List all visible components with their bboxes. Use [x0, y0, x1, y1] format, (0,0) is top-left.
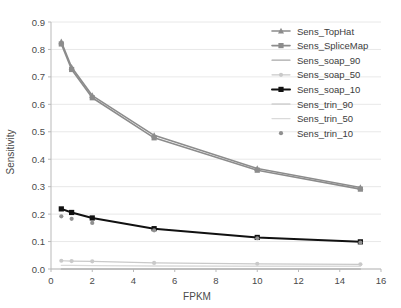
- data-point-marker: [59, 41, 64, 46]
- series-sens-soap-10: [59, 206, 363, 244]
- y-tick-label: 0.1: [32, 236, 45, 247]
- legend-item-sens-tophat[interactable]: Sens_TopHat: [272, 26, 354, 37]
- data-point-marker: [59, 206, 64, 211]
- data-point-marker: [90, 215, 95, 220]
- data-point-marker: [255, 262, 259, 266]
- legend-item-label: Sens_trin_50: [297, 113, 353, 124]
- legend-item-label: Sens_trin_10: [297, 128, 353, 139]
- data-point-marker: [255, 168, 260, 173]
- data-point-marker: [59, 214, 63, 218]
- chart-container: 0.00.10.20.30.40.50.60.70.80.9 024681012…: [0, 0, 401, 308]
- y-tick-label: 0.8: [32, 44, 45, 55]
- data-point-marker: [255, 236, 259, 240]
- x-tick-label: 12: [293, 275, 304, 286]
- y-tick-label: 0.0: [32, 264, 45, 275]
- data-point-marker: [59, 259, 63, 263]
- y-tick-label: 0.5: [32, 126, 45, 137]
- legend-item-label: Sens_SpliceMap: [297, 40, 368, 51]
- data-point-marker: [358, 187, 363, 192]
- legend-item-label: Sens_soap_50: [297, 69, 360, 80]
- x-tick-label: 14: [334, 275, 345, 286]
- x-tick-label: 4: [131, 275, 136, 286]
- series-line: [61, 265, 360, 266]
- legend-item-sens-soap-50[interactable]: Sens_soap_50: [272, 69, 360, 80]
- series-line: [61, 261, 360, 265]
- y-tick-label: 0.2: [32, 209, 45, 220]
- legend-item-sens-soap-90[interactable]: Sens_soap_90: [272, 55, 360, 66]
- data-point-marker: [69, 67, 74, 72]
- x-tick-label: 6: [172, 275, 177, 286]
- legend-item-sens-trin-90[interactable]: Sens_trin_90: [272, 99, 353, 110]
- data-point-marker: [69, 210, 74, 215]
- x-tick-label: 0: [48, 275, 53, 286]
- legend-item-sens-trin-10[interactable]: Sens_trin_10: [279, 128, 353, 139]
- x-tick-label: 8: [213, 275, 218, 286]
- y-tick-label: 0.9: [32, 17, 45, 28]
- data-point-marker: [90, 259, 94, 263]
- data-point-marker: [70, 259, 74, 263]
- y-tick-label: 0.3: [32, 181, 45, 192]
- legend-marker-swatch: [278, 87, 283, 92]
- series-sens-trin-50: [61, 265, 360, 266]
- x-tick-label: 2: [90, 275, 95, 286]
- y-axis-title: Sensitivity: [5, 129, 16, 174]
- data-point-marker: [90, 95, 95, 100]
- legend-item-sens-soap-10[interactable]: Sens_soap_10: [272, 84, 360, 95]
- x-axis-title: FPKM: [183, 291, 211, 302]
- data-point-marker: [358, 241, 362, 245]
- sensitivity-vs-fpkm-line-chart: 0.00.10.20.30.40.50.60.70.80.9 024681012…: [0, 0, 401, 308]
- data-point-marker: [152, 261, 156, 265]
- legend-item-sens-trin-50[interactable]: Sens_trin_50: [272, 113, 353, 124]
- legend-item-label: Sens_TopHat: [297, 26, 354, 37]
- chart-legend: Sens_TopHatSens_SpliceMapSens_soap_90Sen…: [272, 26, 368, 139]
- legend-marker-swatch: [278, 43, 283, 48]
- x-tick-label: 16: [376, 275, 387, 286]
- data-point-marker: [152, 135, 157, 140]
- y-tick-label: 0.7: [32, 71, 45, 82]
- data-point-marker: [152, 228, 156, 232]
- legend-marker-swatch: [279, 131, 283, 135]
- x-tick-label: 10: [252, 275, 263, 286]
- legend-marker-swatch: [279, 73, 283, 77]
- legend-item-label: Sens_soap_90: [297, 55, 360, 66]
- y-tick-label: 0.4: [32, 154, 45, 165]
- legend-item-label: Sens_trin_90: [297, 99, 353, 110]
- y-axis-tick-labels: 0.00.10.20.30.40.50.60.70.80.9: [32, 17, 51, 275]
- x-axis-tick-labels: 0246810121416: [48, 275, 386, 286]
- data-point-marker: [90, 221, 94, 225]
- legend-item-label: Sens_soap_10: [297, 84, 360, 95]
- data-point-marker: [70, 217, 74, 221]
- y-tick-label: 0.6: [32, 99, 45, 110]
